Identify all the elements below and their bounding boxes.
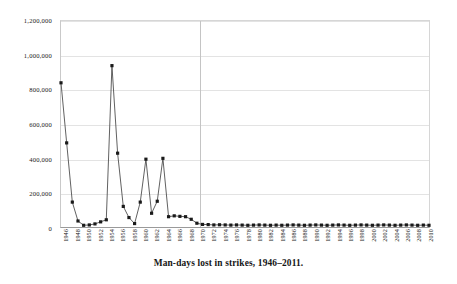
data-point-marker <box>263 224 266 227</box>
y-axis-tick-label: 1,200,000 <box>24 17 52 24</box>
x-axis-tick-label: 1994 <box>336 229 343 242</box>
data-point-marker <box>241 224 244 227</box>
x-axis-tick-label: 1972 <box>210 229 217 242</box>
data-point-marker <box>156 200 159 203</box>
x-axis-tick-label: 1948 <box>74 229 81 242</box>
data-point-marker <box>71 201 74 204</box>
x-axis-tick-label: 1990 <box>313 229 320 242</box>
data-point-marker <box>167 215 170 218</box>
data-point-marker <box>246 224 249 227</box>
data-point-marker <box>110 64 113 67</box>
data-point-marker <box>218 223 221 226</box>
data-point-marker <box>76 219 79 222</box>
data-point-marker <box>150 212 153 215</box>
x-axis-tick-label: 1984 <box>279 229 286 242</box>
data-point-marker <box>365 224 368 227</box>
data-point-marker <box>342 224 345 227</box>
data-point-marker <box>133 222 136 225</box>
y-axis-tick-label: 0 <box>49 225 53 232</box>
data-point-marker <box>207 223 210 226</box>
data-point-marker <box>122 205 125 208</box>
data-point-marker <box>337 223 340 226</box>
data-point-marker <box>320 224 323 227</box>
x-axis-tick-label: 2004 <box>393 229 400 242</box>
data-point-marker <box>99 220 102 223</box>
data-point-marker <box>297 224 300 227</box>
data-point-marker <box>280 224 283 227</box>
plot-area <box>60 20 430 228</box>
x-axis-tick-label: 1988 <box>301 229 308 242</box>
data-point-marker <box>195 222 198 225</box>
x-axis-tick-label: 1966 <box>176 229 183 242</box>
data-point-marker <box>235 223 238 226</box>
x-axis-tick-label: 1956 <box>119 229 126 242</box>
data-series-line <box>61 21 429 227</box>
y-axis-tick-label: 400,000 <box>29 155 52 162</box>
x-axis-tick-label: 1968 <box>188 229 195 242</box>
x-axis-tick-label: 1958 <box>131 229 138 242</box>
data-point-marker <box>116 152 119 155</box>
data-point-marker <box>65 141 68 144</box>
x-axis-tick-label: 2008 <box>415 229 422 242</box>
data-point-marker <box>388 224 391 227</box>
x-axis-tick-label: 1954 <box>108 229 115 242</box>
data-point-marker <box>184 215 187 218</box>
data-point-marker <box>258 223 261 226</box>
data-point-marker <box>354 224 357 227</box>
data-point-marker <box>326 224 329 227</box>
chart-caption: Man-days lost in strikes, 1946–2011. <box>0 258 457 268</box>
data-point-marker <box>105 218 108 221</box>
data-point-marker <box>178 215 181 218</box>
x-axis-tick-label: 1978 <box>245 229 252 242</box>
data-point-marker <box>59 81 62 84</box>
data-point-marker <box>173 214 176 217</box>
data-point-marker <box>161 157 164 160</box>
x-axis-tick-label: 1946 <box>62 229 69 242</box>
data-point-marker <box>292 223 295 226</box>
x-axis-tick-label: 1992 <box>324 229 331 242</box>
data-point-marker <box>331 224 334 227</box>
data-point-marker <box>190 218 193 221</box>
data-point-marker <box>229 224 232 227</box>
x-axis-tick-label: 1974 <box>222 229 229 242</box>
y-axis-tick-label: 800,000 <box>29 86 52 93</box>
data-point-marker <box>427 224 430 227</box>
data-point-marker <box>371 224 374 227</box>
x-axis-tick-label: 1962 <box>153 229 160 242</box>
data-point-marker <box>359 223 362 226</box>
data-point-marker <box>410 224 413 227</box>
data-point-marker <box>212 223 215 226</box>
data-point-marker <box>286 224 289 227</box>
x-axis-tick-label: 1970 <box>199 229 206 242</box>
data-point-marker <box>382 223 385 226</box>
x-axis-tick-label: 2006 <box>404 229 411 242</box>
data-point-marker <box>88 223 91 226</box>
y-axis-tick-label: 1,000,000 <box>24 51 52 58</box>
data-point-marker <box>269 224 272 227</box>
x-axis: 1946194819501952195419561958196019621964… <box>60 229 430 257</box>
chart-figure: 0200,000400,000600,000800,0001,000,0001,… <box>0 0 457 284</box>
data-point-marker <box>422 224 425 227</box>
x-axis-tick-label: 1950 <box>85 229 92 242</box>
data-point-marker <box>405 223 408 226</box>
data-point-marker <box>224 223 227 226</box>
data-point-marker <box>376 224 379 227</box>
data-point-marker <box>309 224 312 227</box>
x-axis-tick-label: 2000 <box>370 229 377 242</box>
data-point-marker <box>393 224 396 227</box>
x-axis-tick-label: 1960 <box>142 229 149 242</box>
data-point-marker <box>82 224 85 227</box>
data-point-marker <box>416 224 419 227</box>
x-axis-tick-label: 1976 <box>233 229 240 242</box>
x-axis-tick-label: 1986 <box>290 229 297 242</box>
data-point-marker <box>127 216 130 219</box>
data-point-marker <box>348 224 351 227</box>
x-axis-tick-label: 1952 <box>97 229 104 242</box>
data-point-marker <box>275 224 278 227</box>
data-point-marker <box>139 201 142 204</box>
y-axis: 0200,000400,000600,000800,0001,000,0001,… <box>0 20 56 228</box>
x-axis-tick-label: 1998 <box>358 229 365 242</box>
x-axis-tick-label: 2002 <box>381 229 388 242</box>
data-point-marker <box>201 223 204 226</box>
data-point-marker <box>252 224 255 227</box>
